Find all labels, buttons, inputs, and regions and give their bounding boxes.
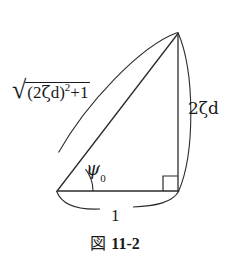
zeta-symbol: ζ [41, 82, 50, 102]
psi-subscript: 0 [100, 172, 106, 184]
base-side-label: 1 [111, 207, 120, 224]
caption-prefix-kanji: 図 [90, 234, 106, 253]
figure-caption: 図11-2 [0, 230, 230, 254]
figure-container: √ (2ζd)2+1 2ζd 1 ψ0 図11-2 [0, 0, 230, 258]
hypotenuse-label: √ (2ζd)2+1 [12, 79, 90, 99]
d-symbol: d [51, 83, 60, 102]
vertical-side-label: 2ζd [188, 100, 219, 117]
angle-label: ψ0 [86, 160, 106, 178]
right-angle-marker [163, 176, 178, 191]
base-brace-arc-left [57, 191, 101, 209]
base-brace-arc-right [133, 191, 179, 207]
radical-sign-icon: √ [12, 80, 26, 100]
radicand-group: (2ζd)2+1 [25, 82, 90, 101]
plus-one-term: +1 [70, 83, 88, 102]
triangle-hypotenuse-side [58, 34, 179, 191]
psi-symbol: ψ [86, 158, 100, 179]
caption-number: 11-2 [111, 235, 139, 252]
